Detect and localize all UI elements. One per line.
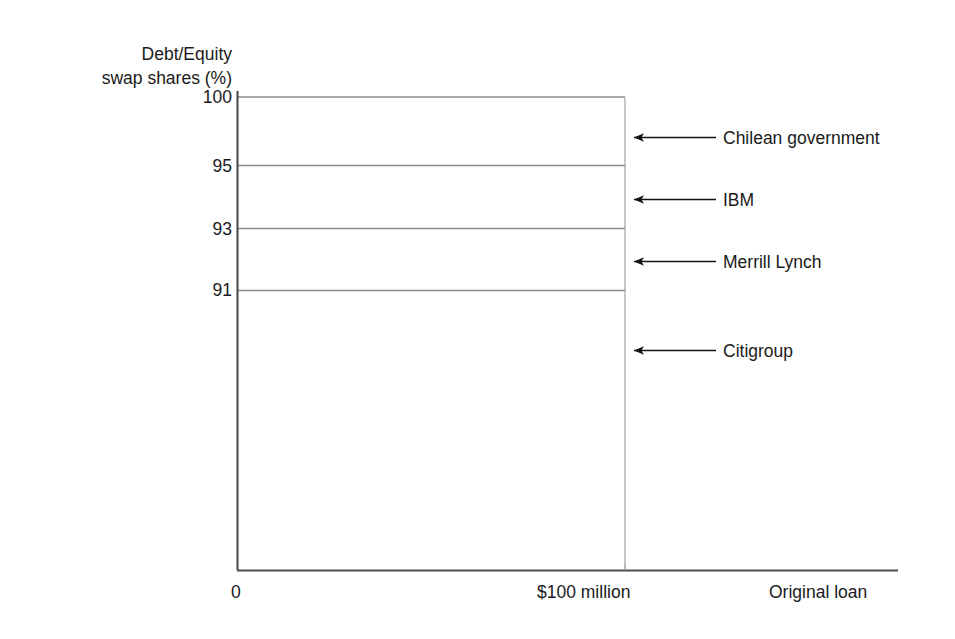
chart-figure: Debt/Equity swap shares (%) 100 95 93 91…: [0, 0, 955, 639]
plot-area: [0, 0, 955, 639]
